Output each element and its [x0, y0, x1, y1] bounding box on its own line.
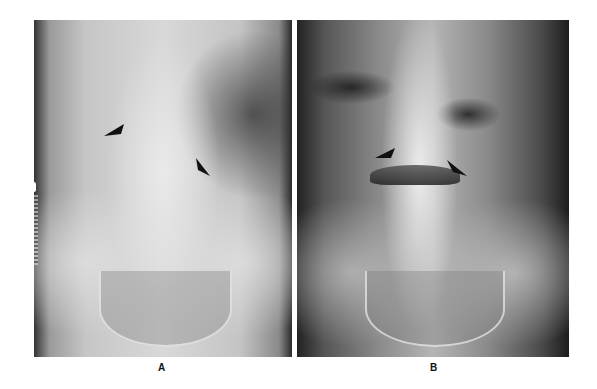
- radiograph-panel-b: [297, 20, 569, 357]
- film-marker: [31, 182, 36, 192]
- panel-label-b: B: [430, 362, 437, 373]
- pelvis-shadow: [365, 271, 505, 347]
- side-marking: [34, 195, 38, 265]
- panel-label-a: A: [158, 362, 165, 373]
- arrow-icon: [447, 160, 469, 178]
- arrow-icon: [375, 148, 397, 162]
- arrow-icon: [104, 122, 126, 138]
- radiograph-panel-a: [34, 20, 292, 357]
- pelvis-shadow: [99, 271, 232, 347]
- arrow-icon: [194, 158, 212, 178]
